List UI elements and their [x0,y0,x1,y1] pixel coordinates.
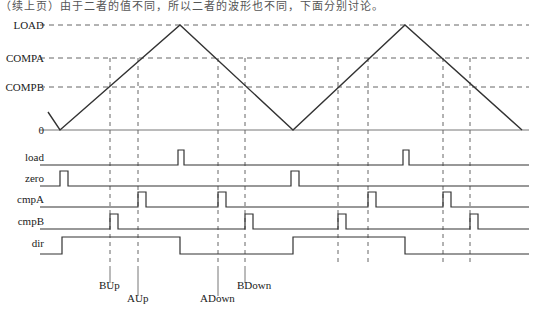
signal-label-cmpa: cmpA [0,194,44,205]
annotation-label-adown: ADown [200,293,235,304]
signal-trace-cmpa [40,192,529,207]
axis-label-zero-level: 0 [0,125,44,136]
signal-label-load: load [0,152,44,163]
axis-label-compa-level: COMPA [0,53,44,64]
signal-trace-cmpb [40,214,529,229]
signal-trace-load [40,150,529,165]
signal-label-zero: zero [0,173,44,184]
signal-label-cmpb: cmpB [0,216,44,227]
timing-diagram-figure: （续上页）由于二者的值不同，所以二者的波形也不同，下面分别讨论。 LOADCOM… [0,0,535,311]
axis-label-load-level: LOAD [0,20,44,31]
signal-label-dir: dir [0,238,44,249]
annotation-label-aup: AUp [127,293,148,304]
axis-label-compb-level: COMPB [0,82,44,93]
signal-trace-dir [40,237,529,254]
annotation-label-bup: BUp [99,280,120,291]
waveform-canvas [0,0,535,311]
carrier-counter-triangle [48,25,522,130]
signal-trace-zero [40,171,529,186]
annotation-label-bdown: BDown [237,280,271,291]
